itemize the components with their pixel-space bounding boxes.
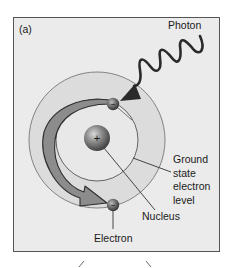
nucleus-plus-sign: +: [94, 132, 100, 144]
electron-label: Electron: [94, 232, 133, 246]
ground-state-label-line-3: electron: [173, 180, 210, 194]
nucleus-label: Nucleus: [142, 210, 180, 224]
perspective-line-right: [146, 261, 151, 267]
ground-state-label: Ground state electron level: [173, 153, 210, 207]
perspective-line-left: [79, 261, 84, 267]
ground-state-label-line-4: level: [173, 194, 210, 208]
ground-state-label-line-2: state: [173, 167, 210, 181]
bottom-electron-minus-sign: −: [111, 201, 116, 210]
ground-state-label-line-1: Ground: [173, 153, 210, 167]
panel-label: (a): [19, 23, 32, 37]
atom-photon-absorption-diagram: + − − (a) Photon Ground state electron l…: [0, 0, 232, 268]
photon-label: Photon: [168, 19, 201, 33]
diagram-canvas: + − −: [0, 0, 232, 268]
top-electron-minus-sign: −: [111, 100, 116, 109]
